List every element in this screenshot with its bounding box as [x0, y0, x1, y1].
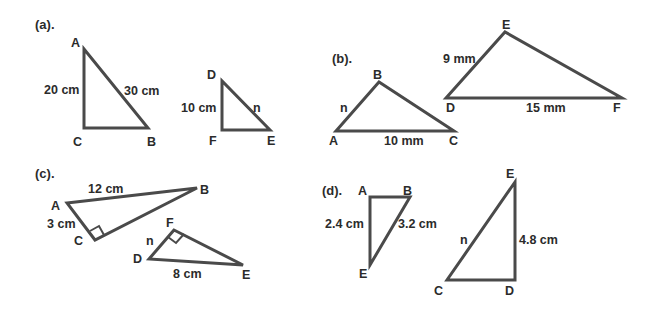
side-label-de: 8 cm — [173, 267, 202, 281]
side-label-de: 9 mm — [443, 52, 476, 66]
vertex-label-b: B — [200, 183, 209, 197]
triangle-def-b: E D F 9 mm 15 mm — [443, 18, 622, 115]
vertex-label-f: F — [613, 101, 621, 115]
vertex-label-f: F — [166, 216, 174, 230]
vertex-label-c: C — [73, 135, 82, 149]
triangle-outline — [447, 182, 515, 280]
vertex-label-c: C — [74, 234, 83, 248]
triangle-def-c: F D E n 8 cm — [133, 216, 250, 282]
vertex-label-b: B — [403, 184, 412, 198]
side-label-df: 10 cm — [181, 101, 216, 115]
vertex-label-a: A — [329, 134, 338, 148]
part-a: (a). A C B 20 cm 30 cm D F E 10 cm n — [35, 17, 275, 149]
triangle-outline — [336, 82, 454, 131]
triangle-def-a: D F E 10 cm n — [181, 68, 275, 148]
vertex-label-d: D — [446, 101, 455, 115]
side-label-de: n — [253, 101, 261, 115]
similar-triangles-diagram: (a). A C B 20 cm 30 cm D F E 10 cm n (b)… — [0, 0, 661, 311]
vertex-label-a: A — [71, 36, 80, 50]
vertex-label-e: E — [267, 134, 275, 148]
part-b: (b). B A C n 10 mm E D F 9 mm 15 mm — [329, 18, 622, 148]
vertex-label-b: B — [373, 68, 382, 82]
side-label-ac: 3 cm — [47, 217, 76, 231]
part-d-label: (d). — [322, 183, 342, 198]
vertex-label-c: C — [449, 134, 458, 148]
side-label-ab: 12 cm — [88, 182, 123, 196]
part-c: (c). A B C 12 cm 3 cm F D E n 8 cm — [35, 166, 250, 282]
vertex-label-d: D — [133, 252, 142, 266]
vertex-label-e: E — [502, 18, 510, 32]
part-a-label: (a). — [35, 17, 55, 32]
triangle-outline — [149, 230, 243, 265]
vertex-label-c: C — [434, 284, 443, 298]
vertex-label-e: E — [242, 268, 250, 282]
vertex-label-e: E — [506, 167, 514, 181]
triangle-abc-a: A C B 20 cm 30 cm — [44, 36, 159, 149]
triangle-outline — [370, 197, 410, 265]
vertex-label-e: E — [359, 267, 367, 281]
triangle-abc-b: B A C n 10 mm — [329, 68, 458, 148]
vertex-label-d: D — [207, 68, 216, 82]
vertex-label-d: D — [505, 284, 514, 298]
side-label-ac: 20 cm — [44, 83, 79, 97]
triangle-abe-d: A B E 2.4 cm 3.2 cm — [325, 184, 437, 281]
side-label-ac: 10 mm — [384, 134, 424, 148]
side-label-ce: n — [460, 233, 468, 247]
vertex-label-b: B — [147, 135, 156, 149]
triangle-abc-c: A B C 12 cm 3 cm — [47, 182, 209, 248]
part-b-label: (b). — [332, 51, 352, 66]
side-label-df: 15 mm — [526, 101, 566, 115]
vertex-label-a: A — [358, 184, 367, 198]
right-angle-marker — [90, 226, 104, 235]
triangle-cde-d: E C D n 4.8 cm — [434, 167, 558, 298]
side-label-be: 3.2 cm — [398, 217, 437, 231]
side-label-ab: 30 cm — [124, 84, 159, 98]
side-label-ab: n — [340, 101, 348, 115]
side-label-de: 4.8 cm — [519, 233, 558, 247]
part-d: (d). A B E 2.4 cm 3.2 cm E C D n 4.8 cm — [322, 167, 558, 298]
side-label-ae: 2.4 cm — [325, 217, 364, 231]
triangle-outline — [222, 81, 270, 130]
vertex-label-a: A — [51, 199, 60, 213]
part-c-label: (c). — [35, 166, 55, 181]
vertex-label-f: F — [209, 134, 217, 148]
side-label-df: n — [146, 234, 154, 248]
